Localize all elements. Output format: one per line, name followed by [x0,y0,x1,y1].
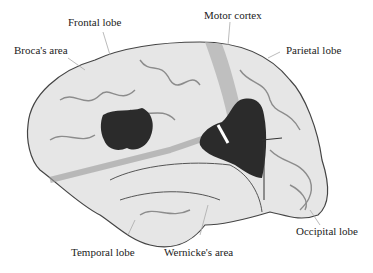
label-motor-cortex: Motor cortex [204,9,262,21]
label-temporal-lobe: Temporal lobe [71,246,135,258]
label-brocas-area: Broca's area [14,44,68,56]
brocas-area-region [101,108,153,150]
label-parietal-lobe: Parietal lobe [286,44,341,56]
label-frontal-lobe: Frontal lobe [68,16,121,28]
brain-diagram: Frontal lobe Motor cortex Broca's area P… [0,0,373,273]
label-wernickes-area: Wernicke's area [164,246,233,258]
label-occipital-lobe: Occipital lobe [296,225,358,237]
